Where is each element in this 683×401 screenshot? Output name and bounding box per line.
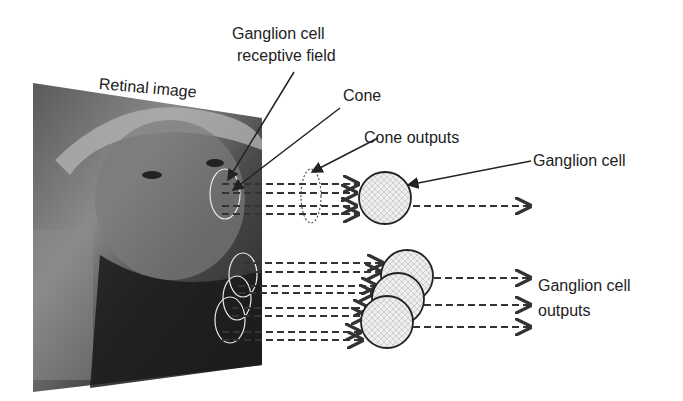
ganglion-cell: [359, 172, 411, 224]
ganglion-cell-label: Ganglion cell: [533, 151, 626, 171]
ganglion-outputs-label-line1: Ganglion cell: [538, 276, 631, 296]
retina-diagram: [0, 0, 683, 401]
cone-outputs-label: Cone outputs: [364, 128, 459, 148]
retinal-image: [33, 83, 262, 392]
cone-label: Cone: [343, 86, 381, 106]
receptive-field-label-line2: receptive field: [237, 46, 336, 66]
ganglion-outputs-label-line2: outputs: [538, 301, 590, 321]
receptive-field-label-line1: Ganglion cell: [232, 24, 325, 44]
ganglion-cell-3: [361, 296, 413, 348]
